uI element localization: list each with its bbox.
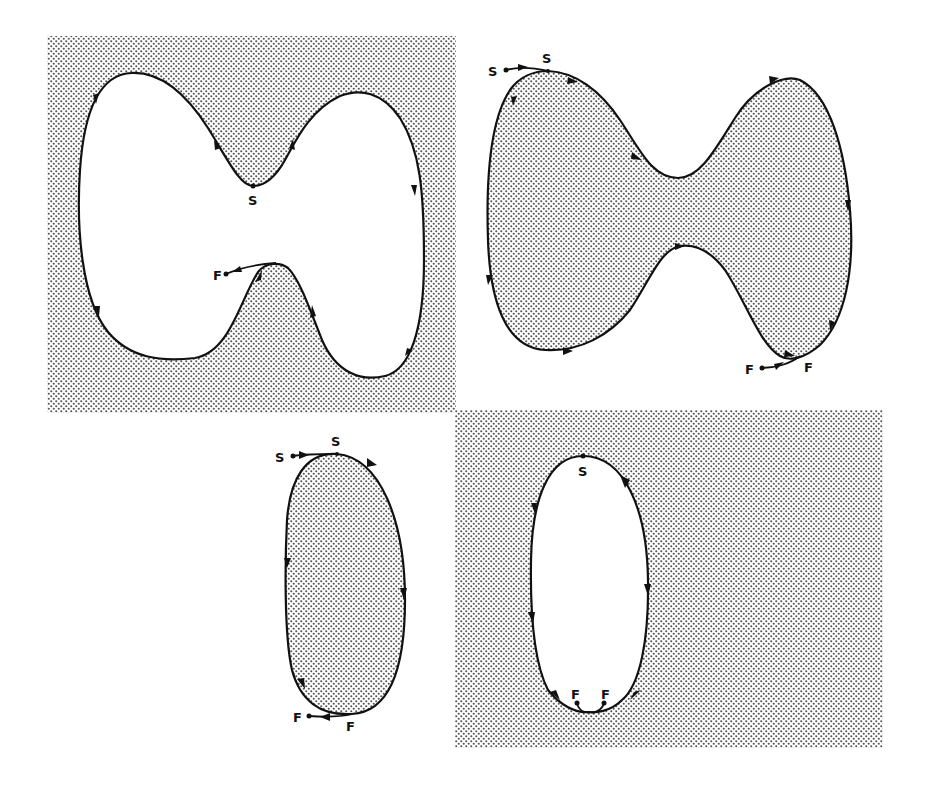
panel-1: S F xyxy=(47,36,456,413)
panel-1-start-label: S xyxy=(248,193,257,208)
arrow-icon xyxy=(518,64,528,71)
arrow-icon xyxy=(367,458,377,467)
panel-4-start-point xyxy=(581,454,586,459)
panel-2-inner-start-label: S xyxy=(542,51,551,66)
panel-2-start-label: S xyxy=(488,64,497,79)
panel-3: S S F F xyxy=(275,434,407,734)
panel-4-finish-label-right: F xyxy=(601,687,610,702)
panel-3-finish-tail xyxy=(309,714,352,717)
panel-2-inner-finish-label: F xyxy=(804,360,813,375)
arrow-icon xyxy=(774,362,784,370)
panel-2-start-tail xyxy=(506,68,548,71)
panel-2-finish-point xyxy=(760,366,765,371)
panel-1-finish-label: F xyxy=(213,268,222,283)
panel-3-finish-label: F xyxy=(293,710,302,725)
arrow-icon xyxy=(299,451,309,459)
panel-2: S S F F xyxy=(486,51,851,377)
panel-3-inner-finish-label: F xyxy=(346,719,355,734)
panel-2-inner-start-point xyxy=(546,69,550,73)
panel-4-start-label: S xyxy=(578,464,587,479)
panel-4-finish-label-left: F xyxy=(571,687,580,702)
panel-4-region-boundary xyxy=(531,456,648,712)
panel-3-inner-start-point xyxy=(335,452,339,456)
panel-3-region-boundary xyxy=(286,454,405,714)
panel-3-start-point xyxy=(291,454,296,459)
panel-1-finish-point xyxy=(224,272,229,277)
panel-1-start-point xyxy=(251,184,256,189)
diagram-canvas: S F S S F F xyxy=(0,0,931,786)
panel-2-start-point xyxy=(504,68,509,73)
arrow-icon xyxy=(320,713,330,721)
panel-2-finish-label: F xyxy=(745,362,754,377)
panel-2-region-boundary xyxy=(488,71,852,359)
panel-4-shaded-background xyxy=(455,410,883,748)
panel-4: S F F xyxy=(455,410,883,748)
panel-3-inner-start-label: S xyxy=(331,434,340,449)
panel-3-finish-point xyxy=(307,714,312,719)
panel-3-start-label: S xyxy=(275,450,284,465)
